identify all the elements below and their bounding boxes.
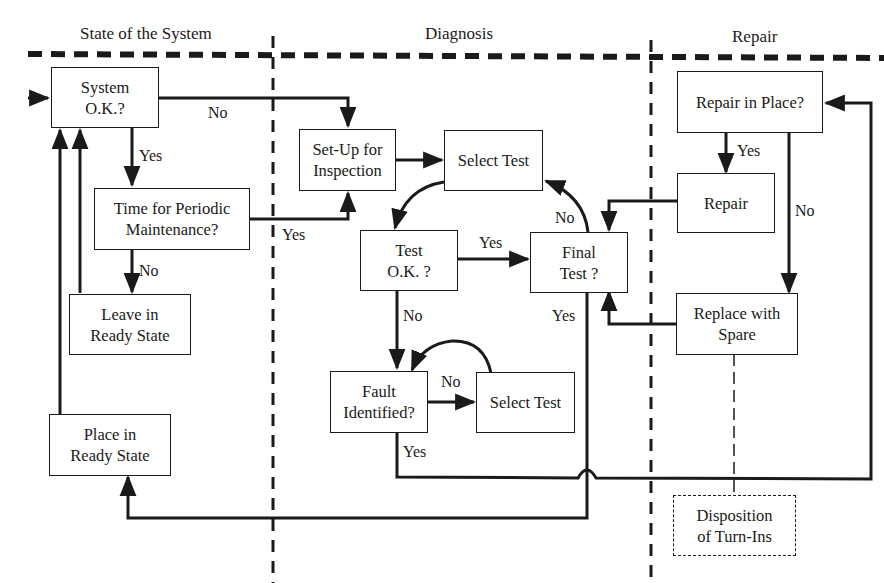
node-place-ready: Place in Ready State (49, 414, 171, 476)
label-repair-yes: Yes (737, 142, 760, 160)
node-fault-identified: Fault Identified? (330, 371, 428, 433)
node-setup-inspection: Set-Up for Inspection (299, 129, 396, 191)
label-repair-no: No (795, 202, 815, 220)
lane-title-state: State of the System (80, 24, 212, 44)
node-test-ok: Test O.K. ? (360, 230, 458, 291)
lane-title-repair: Repair (732, 27, 777, 47)
lane-dividers (28, 54, 884, 58)
node-final-test: Final Test ? (530, 232, 628, 293)
lane-title-diagnosis: Diagnosis (425, 24, 493, 44)
label-fault-no: No (441, 373, 461, 391)
node-system-ok: System O.K.? (51, 67, 159, 128)
label-system-yes: Yes (139, 147, 162, 165)
label-final-no: No (555, 209, 575, 227)
label-test-no: No (403, 307, 423, 325)
node-repair-in-place: Repair in Place? (677, 71, 823, 133)
label-test-yes: Yes (479, 234, 502, 252)
node-select-test-2: Select Test (476, 372, 575, 433)
label-periodic-no: No (139, 262, 159, 280)
node-leave-ready: Leave in Ready State (69, 294, 191, 355)
label-final-yes: Yes (552, 307, 575, 325)
node-replace-spare: Replace with Spare (676, 293, 798, 355)
node-periodic-maintenance: Time for Periodic Maintenance? (94, 188, 250, 250)
node-repair: Repair (677, 173, 775, 233)
node-disposition-turn-ins: Disposition of Turn-Ins (673, 495, 796, 556)
label-periodic-yes: Yes (282, 226, 305, 244)
label-system-no: No (208, 104, 228, 122)
node-select-test-1: Select Test (444, 130, 543, 191)
label-fault-yes: Yes (403, 443, 426, 461)
